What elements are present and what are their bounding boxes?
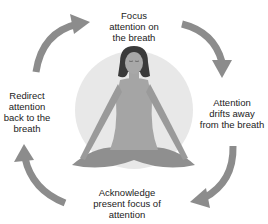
step-redirect-line-4: breath [0, 123, 54, 134]
step-focus-line-2: attention on [94, 21, 174, 32]
step-focus-line-3: the breath [94, 32, 174, 43]
step-drift-line-2: drifts away [196, 108, 268, 119]
arrow-bottom-right [204, 146, 233, 198]
arrow-top-left [36, 24, 78, 72]
step-focus-line-1: Focus [94, 10, 174, 21]
arrow-head-bottom-left-icon [14, 144, 34, 162]
step-acknowledge-line-3: attention [86, 209, 168, 220]
step-acknowledge-line-2: present focus of [86, 198, 168, 209]
arrow-bottom-left [25, 158, 65, 203]
meditation-cycle-diagram: Focus attention on the breath Attention … [0, 0, 268, 224]
arrow-head-top-right-icon [212, 60, 232, 78]
step-drift-line-1: Attention [196, 97, 268, 108]
step-focus-label: Focus attention on the breath [94, 10, 174, 43]
arrow-top-right [182, 24, 222, 62]
arrow-head-bottom-right-icon [190, 188, 210, 208]
step-redirect-label: Redirect attention back to the breath [0, 90, 54, 134]
step-redirect-line-2: attention [0, 101, 54, 112]
step-drift-label: Attention drifts away from the breath [196, 97, 268, 130]
arrow-head-top-left-icon [70, 14, 90, 34]
step-redirect-line-1: Redirect [0, 90, 54, 101]
step-acknowledge-line-1: Acknowledge [86, 187, 168, 198]
step-redirect-line-3: back to the [0, 112, 54, 123]
step-drift-line-3: from the breath [196, 119, 268, 130]
step-acknowledge-label: Acknowledge present focus of attention [86, 187, 168, 220]
